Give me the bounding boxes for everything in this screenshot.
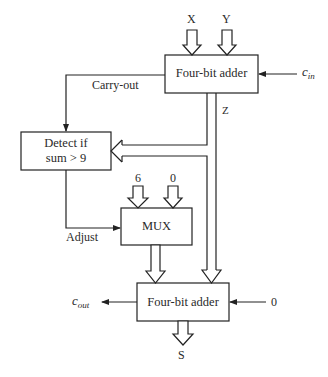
z-label: Z: [222, 104, 229, 116]
mux-label: MUX: [121, 219, 192, 234]
cout-label: cout: [72, 295, 89, 311]
detect-line1: Detect if: [21, 136, 111, 151]
cin-label: cin: [302, 66, 315, 82]
adjust-label: Adjust: [66, 231, 98, 243]
carry-out-label: Carry-out: [92, 79, 139, 91]
input-y-label: Y: [222, 13, 231, 25]
diagram-wires: [0, 0, 328, 377]
detect-line2: sum > 9: [21, 151, 111, 166]
cin-sub: in: [308, 71, 315, 81]
cout-sub: out: [78, 300, 90, 310]
detect-box-label: Detect if sum > 9: [21, 136, 111, 166]
input-x-label: X: [187, 13, 196, 25]
bottom-carry-in-label: 0: [271, 296, 277, 308]
bottom-adder-label: Four-bit adder: [137, 295, 229, 310]
top-adder-label: Four-bit adder: [165, 66, 258, 81]
mux-input-6-label: 6: [135, 172, 141, 184]
sum-output-label: S: [178, 349, 185, 361]
mux-input-0-label: 0: [170, 172, 176, 184]
